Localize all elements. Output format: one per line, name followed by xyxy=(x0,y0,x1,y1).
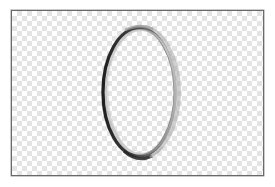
ring-graphic[interactable] xyxy=(12,11,263,175)
ring-highlight xyxy=(108,30,176,154)
transparent-canvas[interactable] xyxy=(11,10,264,176)
